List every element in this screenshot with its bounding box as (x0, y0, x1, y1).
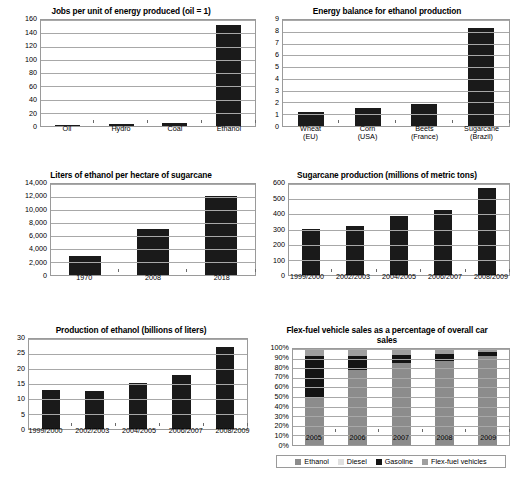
gridline (29, 339, 247, 340)
y-axis-tick-label: 200 (273, 241, 285, 248)
y-axis-tick-label: 9 (275, 15, 279, 22)
legend-item-ethanol[interactable]: Ethanol (295, 458, 328, 466)
y-axis-tick (40, 73, 41, 74)
bar-slot[interactable] (396, 20, 453, 126)
x-axis-ticks (50, 269, 256, 272)
y-axis-tick (292, 416, 293, 417)
gridline (29, 399, 247, 400)
x-axis-tick-label: Beets (France) (396, 125, 453, 142)
y-axis-tick (288, 199, 289, 200)
gridline (289, 260, 509, 261)
y-axis-tick (282, 114, 283, 115)
gridline (51, 197, 255, 198)
y-axis-tick-label: 10 (17, 396, 25, 403)
legend-item-gasoline[interactable]: Gasoline (376, 458, 413, 466)
gridline (41, 33, 255, 34)
y-axis-tick (292, 349, 293, 350)
y-axis-tick (40, 47, 41, 48)
y-axis-tick (40, 33, 41, 34)
gridline (289, 230, 509, 231)
y-axis-tick (50, 197, 51, 198)
y-axis-tick-label: 120 (25, 42, 37, 49)
chart-panel-jobs-per-unit-energy: Jobs per unit of energy produced (oil = … (6, 6, 256, 164)
gridline (293, 387, 509, 388)
x-axis-tick (94, 120, 148, 123)
x-axis-tick-label: Corn (USA) (339, 125, 396, 142)
y-axis-labels: 02,0004,0006,0008,00010,00012,00014,000 (6, 183, 50, 276)
y-axis-tick-label: 10% (275, 433, 289, 440)
x-axis-tick-label: 2006/2007 (422, 273, 468, 281)
gridline (283, 20, 509, 21)
x-axis-tick-label: 2008 (119, 274, 188, 282)
y-axis-tick (288, 245, 289, 246)
x-axis-tick-label: 2006 (336, 434, 380, 442)
stack-segment-flex-fuel-vehicles (348, 349, 367, 356)
legend-item-diesel[interactable]: Diesel (338, 458, 367, 466)
gridline (293, 378, 509, 379)
y-axis-tick (282, 67, 283, 68)
x-axis-tick-label: 1970 (50, 274, 119, 282)
y-axis-tick-label: 2 (275, 99, 279, 106)
y-axis-tick (292, 378, 293, 379)
y-axis-tick-label: 0 (275, 123, 279, 130)
gridline (29, 414, 247, 415)
gridline (283, 91, 509, 92)
gridline (29, 369, 247, 370)
gridline (289, 245, 509, 246)
gridline (293, 349, 509, 350)
gridline (41, 100, 255, 101)
y-axis-tick-label: 60 (29, 83, 37, 90)
y-axis-tick-label: 15 (17, 380, 25, 387)
y-axis-tick-label: 100% (271, 344, 289, 351)
y-axis-labels: 0123456789 (264, 19, 282, 127)
legend-label: Ethanol (304, 458, 328, 466)
gridline (51, 236, 255, 237)
x-axis-tick (50, 269, 119, 272)
y-axis-tick (292, 368, 293, 369)
x-axis-labels: OilHydroCoalEthanol (40, 125, 256, 133)
x-axis-tick-label: Oil (40, 125, 94, 133)
bar-group (283, 20, 509, 126)
bar-slot[interactable] (283, 20, 340, 126)
x-axis-tick (423, 429, 467, 432)
y-axis-tick-label: 50% (275, 393, 289, 400)
bar (216, 25, 241, 126)
bar-slot[interactable] (340, 20, 397, 126)
y-axis-tick-label: 20% (275, 423, 289, 430)
y-axis-tick (28, 369, 29, 370)
y-axis-tick (40, 86, 41, 87)
gridline (289, 199, 509, 200)
y-axis-tick-label: 5 (275, 63, 279, 70)
x-axis-labels: Wheat (EU)Corn (USA)Beets (France)Sugarc… (282, 125, 510, 142)
y-axis-tick (292, 426, 293, 427)
y-axis-tick (292, 397, 293, 398)
x-axis-tick (148, 120, 202, 123)
legend-item-flex-fuel-vehicles[interactable]: Flex-fuel vehicles (422, 458, 487, 466)
y-axis-tick (282, 79, 283, 80)
x-axis-tick-label: 2007 (379, 434, 423, 442)
y-axis-tick-label: 0 (43, 272, 47, 279)
y-axis-tick-label: 600 (273, 179, 285, 186)
gridline (293, 368, 509, 369)
plot-area-production-of-ethanol: 051015202530 (6, 338, 256, 430)
y-axis-tick (282, 55, 283, 56)
y-axis-tick (288, 184, 289, 185)
gridline (283, 32, 509, 33)
gridline (41, 86, 255, 87)
plot-area-energy-balance: 0123456789 (264, 19, 510, 127)
gridline (293, 359, 509, 360)
y-axis-tick (288, 260, 289, 261)
chart-title: Sugarcane production (millions of metric… (264, 170, 510, 180)
chart-title: Flex-fuel vehicle sales as a percentage … (264, 325, 510, 345)
plot-canvas (282, 19, 510, 127)
bar-slot[interactable] (453, 20, 510, 126)
y-axis-tick-label: 40 (29, 96, 37, 103)
x-axis-labels: 20052006200720082009 (292, 434, 510, 442)
legend-swatch-icon (295, 459, 301, 465)
y-axis-tick-label: 0% (279, 442, 289, 449)
gridline (29, 384, 247, 385)
gridline (283, 114, 509, 115)
gridline (41, 113, 255, 114)
gridline (283, 79, 509, 80)
x-axis-tick-label: 1999/2000 (284, 273, 330, 281)
